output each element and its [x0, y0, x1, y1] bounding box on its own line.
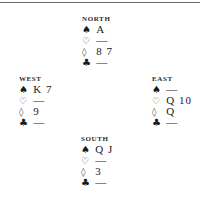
suit-row-clubs: ♣ — [82, 57, 113, 68]
suit-row-clubs: ♣ — [19, 117, 52, 128]
hand-north: NORTH ♠ A ♡ — ◊ 8 7 ♣ — [82, 15, 113, 68]
cards: — [95, 176, 107, 188]
club-icon: ♣ [19, 117, 30, 128]
spade-icon: ♠ [19, 84, 30, 95]
top-rule [0, 2, 200, 3]
hand-west: WEST ♠ K 7 ♡ — ◊ 9 ♣ — [19, 75, 52, 128]
cards: — [96, 56, 108, 68]
club-icon: ♣ [152, 117, 163, 128]
spade-icon: ♠ [81, 144, 92, 155]
spade-icon: ♠ [82, 24, 93, 35]
hand-south: SOUTH ♠ Q J ♡ — ◊ 3 ♣ — [81, 135, 113, 188]
cards: — [33, 116, 45, 128]
spade-icon: ♠ [152, 84, 163, 95]
cards: — [166, 116, 178, 128]
club-icon: ♣ [82, 57, 93, 68]
suit-row-clubs: ♣ — [152, 117, 192, 128]
suit-row-clubs: ♣ — [81, 177, 113, 188]
hand-east: EAST ♠ — ♡ Q 10 ◊ Q ♣ — [152, 75, 192, 128]
club-icon: ♣ [81, 177, 92, 188]
